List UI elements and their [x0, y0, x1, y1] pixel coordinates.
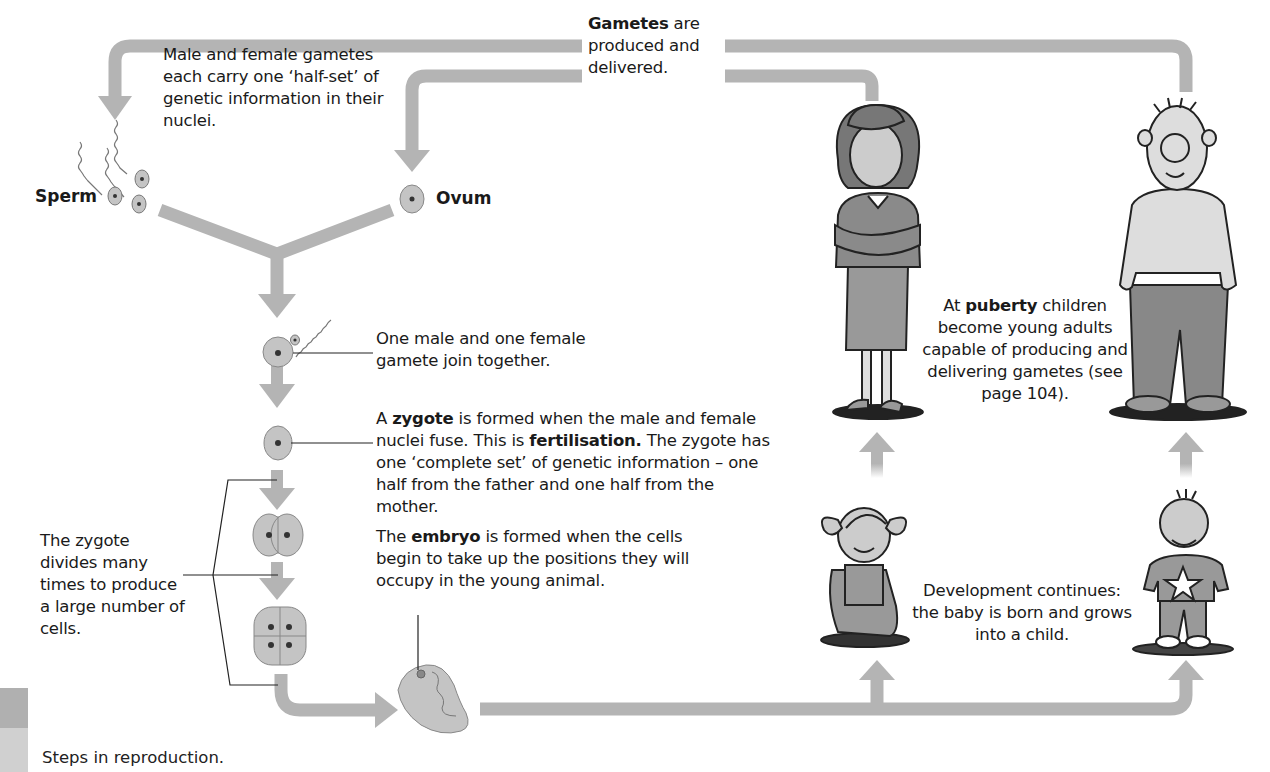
two-cell-stage: [253, 514, 303, 556]
term-fertilisation: fertilisation.: [529, 431, 641, 450]
annotation-embryo: The embryo is formed when the cells begi…: [376, 526, 716, 592]
fertilisation-cell: [263, 320, 331, 367]
embryo-pre: The: [376, 527, 411, 546]
annotation-zygote: A zygote is formed when the male and fem…: [376, 408, 776, 518]
arrow-to-children: [480, 680, 1186, 709]
caption-marker-bottom: [0, 728, 28, 772]
annotation-gametes-carry: Male and female gametes each carry one ‘…: [163, 44, 398, 132]
boy-figure: [1133, 489, 1233, 655]
arrow-fusion-y: [160, 210, 392, 296]
term-gametes: Gametes: [588, 14, 669, 33]
annotation-development: Development continues: the baby is born …: [912, 580, 1132, 646]
woman-figure: [833, 105, 923, 419]
embryo: [398, 615, 468, 733]
girl-figure: [821, 508, 909, 647]
step-arrows: [259, 366, 295, 600]
annotation-gametes-produced: Gametes are produced and delivered.: [588, 13, 728, 79]
annotation-puberty: At puberty children become young adults …: [920, 295, 1130, 405]
puberty-pre: At: [943, 296, 965, 315]
arrow-to-ovum: [412, 76, 872, 150]
annotation-divides: The zygote divides many times to produce…: [40, 530, 190, 640]
figure-caption: Steps in reproduction.: [42, 748, 224, 767]
arrowhead-to-sperm: [98, 96, 132, 120]
term-puberty: puberty: [965, 296, 1037, 315]
annotation-join-together: One male and one female gamete join toge…: [376, 328, 636, 372]
label-sperm: Sperm: [35, 186, 97, 206]
four-cell-stage: [254, 607, 306, 665]
term-embryo: embryo: [411, 527, 480, 546]
zygote-cell: [264, 426, 292, 460]
arrow-to-embryo: [281, 674, 375, 710]
zygote-pre: A: [376, 409, 392, 428]
term-zygote: zygote: [392, 409, 453, 428]
man-figure: [1110, 98, 1246, 420]
ovum-cell: [400, 185, 424, 213]
label-ovum: Ovum: [436, 188, 491, 208]
arrowhead-to-ovum: [394, 150, 430, 172]
caption-marker-top: [0, 688, 28, 728]
